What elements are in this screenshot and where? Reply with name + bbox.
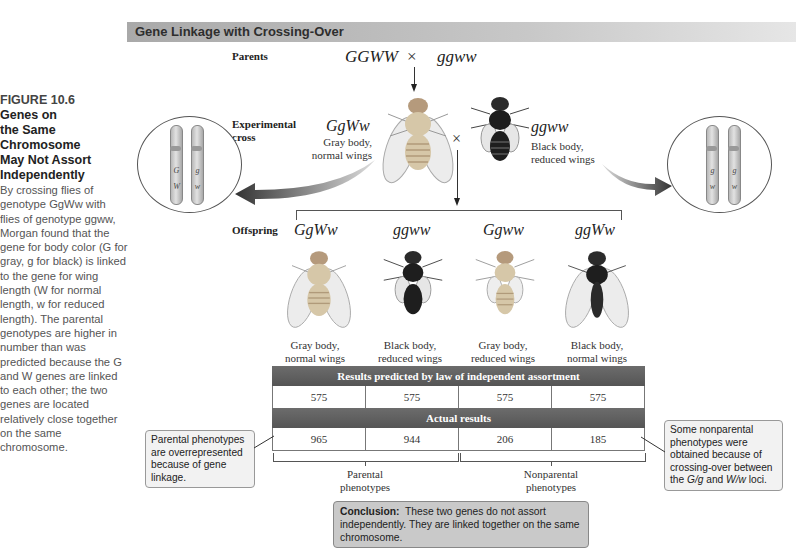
parent-genotype-right: ggww xyxy=(437,47,477,67)
offspring-phenotype: Black body, normal wings xyxy=(552,339,642,365)
experimental-label-line: cross xyxy=(232,131,296,144)
table-cell: 575 xyxy=(365,386,458,408)
caption-title-line: the Same xyxy=(0,123,125,138)
allele-label: g xyxy=(707,166,718,175)
offspring-bracket xyxy=(296,210,622,211)
figure-number: FIGURE 10.6 xyxy=(0,93,125,108)
figure-caption-title: FIGURE 10.6 Genes on the Same Chromosome… xyxy=(0,93,125,183)
parent-genotype-left: GGWW xyxy=(345,47,398,67)
actual-results-header: Actual results xyxy=(272,408,645,428)
callout-crossing-over: Some nonparental phenotypes were obtaine… xyxy=(664,420,783,491)
phenotype-line: normal wings xyxy=(270,352,360,365)
experimental-label-line: Experimental xyxy=(232,118,296,131)
offspring-phenotype: Gray body, normal wings xyxy=(270,339,360,365)
offspring-genotype: ggww xyxy=(393,221,430,239)
bracket-label-line: Parental xyxy=(320,468,410,481)
allele-label: W xyxy=(171,182,182,191)
cross-right-genotype: ggww xyxy=(531,118,568,136)
bracket-label-line: phenotypes xyxy=(506,481,596,494)
phenotype-line: Black body, xyxy=(531,140,611,153)
phenotype-line: reduced wings xyxy=(365,352,455,365)
callout-pointer xyxy=(254,435,276,449)
offspring-genotype: ggWw xyxy=(575,221,615,239)
allele-label: w xyxy=(192,182,203,191)
fly-gray-normal-wings-icon xyxy=(283,244,355,334)
nonparental-bracket xyxy=(460,453,646,462)
locus-label: G/g xyxy=(687,474,703,485)
phenotype-line: reduced wings xyxy=(531,153,611,166)
conclusion-box: Conclusion: These two genes do not assor… xyxy=(333,501,589,548)
centromere xyxy=(191,146,202,151)
phenotype-line: Gray body, xyxy=(300,136,372,149)
callout-text: and xyxy=(703,474,726,485)
chromosome: g w xyxy=(191,125,204,205)
bracket-tick xyxy=(365,461,366,466)
offspring-genotype: GgWw xyxy=(294,221,338,239)
table-cell: 965 xyxy=(273,428,365,450)
bracket-label-line: Nonparental xyxy=(506,468,596,481)
table-cell: 944 xyxy=(365,428,458,450)
parental-phenotypes-label: Parental phenotypes xyxy=(320,468,410,494)
offspring-phenotype: Black body, reduced wings xyxy=(365,339,455,365)
caption-title-line: Genes on xyxy=(0,108,125,123)
parents-label: Parents xyxy=(232,50,268,62)
fly-gray-normal-wings-icon xyxy=(378,92,458,188)
caption-title-line: Chromosome xyxy=(0,138,125,153)
callout-parental-overrepresented: Parental phenotypes are overrepresented … xyxy=(145,430,255,488)
chromosome: G W xyxy=(170,125,183,205)
diagram-header: Gene Linkage with Crossing-Over xyxy=(127,22,796,42)
figure-caption-body: By crossing flies of genotype GgWw with … xyxy=(0,183,128,455)
fly-black-reduced-wings-icon xyxy=(465,92,535,172)
fly-black-normal-wings-icon xyxy=(561,244,633,334)
cross-left-genotype: GgWw xyxy=(326,117,370,135)
fly-black-reduced-wings-icon xyxy=(380,244,446,324)
bracket-label-line: phenotypes xyxy=(320,481,410,494)
table-cell: 575 xyxy=(273,386,365,408)
allele-label: g xyxy=(192,166,203,175)
table-cell: 185 xyxy=(551,428,644,450)
allele-label: w xyxy=(707,182,718,191)
callout-pointer xyxy=(640,436,666,454)
table-cell: 206 xyxy=(458,428,551,450)
offspring-phenotype: Gray body, reduced wings xyxy=(458,339,548,365)
centromere xyxy=(728,146,739,151)
table-cell: 575 xyxy=(458,386,551,408)
conclusion-label: Conclusion: xyxy=(340,506,400,517)
centromere xyxy=(170,146,181,151)
fly-gray-reduced-wings-icon xyxy=(472,244,538,324)
results-table: Results predicted by law of independent … xyxy=(272,366,645,451)
allele-label: w xyxy=(729,182,740,191)
allele-label: G xyxy=(171,166,182,175)
curved-arrow-left-icon xyxy=(225,150,385,210)
phenotype-line: Gray body, xyxy=(270,339,360,352)
experimental-cross-label: Experimental cross xyxy=(232,118,296,144)
predicted-results-header: Results predicted by law of independent … xyxy=(272,366,645,386)
phenotype-line: Black body, xyxy=(552,339,642,352)
chromosome-zoom-right: g w g w xyxy=(667,116,772,213)
chromosome: g w xyxy=(728,125,741,205)
centromere xyxy=(706,146,717,151)
actual-results-row: 965 944 206 185 xyxy=(272,428,645,451)
phenotype-line: normal wings xyxy=(552,352,642,365)
offspring-label: Offspring xyxy=(232,224,278,236)
diagram-title: Gene Linkage with Crossing-Over xyxy=(127,22,796,42)
arrow-line xyxy=(414,67,415,85)
phenotype-line: Black body, xyxy=(365,339,455,352)
offspring-genotype: Ggww xyxy=(483,221,524,239)
bracket-tick xyxy=(296,210,297,220)
curved-arrow-right-icon xyxy=(600,160,675,200)
phenotype-line: Gray body, xyxy=(458,339,548,352)
allele-label: g xyxy=(729,166,740,175)
cross-symbol: × xyxy=(407,47,417,67)
bracket-tick xyxy=(551,461,552,466)
cross-right-phenotype: Black body, reduced wings xyxy=(531,140,611,166)
table-cell: 575 xyxy=(551,386,644,408)
callout-text: loci. xyxy=(746,474,767,485)
predicted-results-row: 575 575 575 575 xyxy=(272,386,645,408)
chromosome: g w xyxy=(706,125,719,205)
arrow-down-icon xyxy=(411,84,417,92)
caption-title-line: Independently xyxy=(0,168,125,183)
phenotype-line: reduced wings xyxy=(458,352,548,365)
caption-title-line: May Not Assort xyxy=(0,153,125,168)
locus-label: W/w xyxy=(726,474,746,485)
